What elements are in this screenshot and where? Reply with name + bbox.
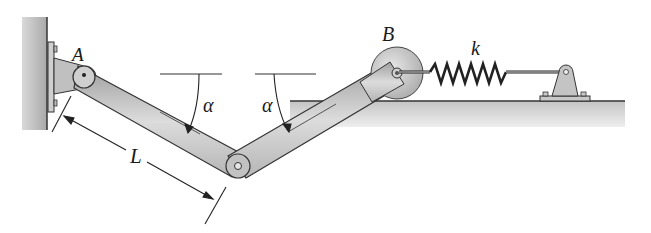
label-a: A	[72, 45, 84, 64]
pin-c	[226, 154, 250, 178]
link-ac	[74, 66, 244, 177]
label-alpha-left: α	[203, 95, 214, 115]
pin-a	[73, 66, 95, 88]
label-b: B	[382, 24, 394, 44]
label-alpha-right: α	[262, 95, 273, 115]
spring	[399, 64, 563, 83]
label-l: L	[130, 146, 142, 167]
mechanism-diagram	[0, 0, 651, 233]
wall	[22, 17, 47, 130]
spring-anchor-bracket	[540, 65, 590, 101]
label-k: k	[471, 38, 480, 58]
